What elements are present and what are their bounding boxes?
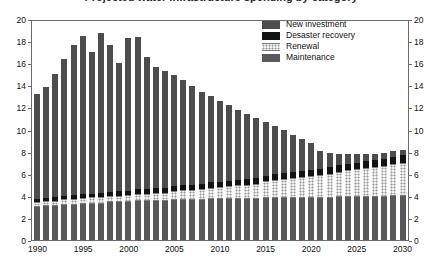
y-tick-mark (28, 108, 31, 109)
bar-1999[interactable] (116, 63, 122, 240)
bar-segment-renewal (390, 164, 396, 196)
bar-segment-renewal (327, 174, 333, 198)
y-tick-label-left-6: 6 (0, 171, 26, 179)
bar-2022[interactable] (327, 153, 333, 240)
y-tick-mark (28, 64, 31, 65)
bar-1994[interactable] (71, 45, 77, 240)
bar-2016[interactable] (272, 126, 278, 240)
bar-1996[interactable] (89, 52, 95, 240)
bar-segment-renewal (281, 179, 287, 198)
bar-1990[interactable] (34, 94, 40, 240)
bar-1992[interactable] (52, 74, 58, 241)
bar-2015[interactable] (263, 122, 269, 240)
bar-2007[interactable] (189, 86, 195, 240)
bar-segment-maintenance (153, 201, 159, 240)
bar-2002[interactable] (144, 57, 150, 240)
bar-segment-maintenance (61, 205, 67, 240)
bar-2001[interactable] (135, 37, 141, 240)
bar-2023[interactable] (336, 154, 342, 240)
bar-1997[interactable] (98, 33, 104, 240)
bar-segment-desaster-recovery (381, 159, 387, 166)
bar-2003[interactable] (153, 67, 159, 240)
y-tick-mark (409, 241, 412, 242)
legend-item-renewal[interactable]: Renewal (262, 41, 355, 52)
y-tick-mark (28, 42, 31, 43)
legend-swatch-new_investment (262, 21, 280, 29)
bar-segment-maintenance (317, 198, 323, 240)
bar-2014[interactable] (253, 118, 259, 240)
y-tick-label-right-12: 12 (414, 104, 440, 112)
bar-1995[interactable] (80, 36, 86, 240)
bar-segment-new-investment (354, 154, 360, 163)
bar-2013[interactable] (244, 114, 250, 240)
bar-2017[interactable] (281, 130, 287, 240)
bar-segment-new-investment (89, 52, 95, 193)
bar-segment-new-investment (61, 59, 67, 196)
bar-2025[interactable] (354, 154, 360, 240)
bar-segment-renewal (317, 175, 323, 198)
bar-segment-new-investment (116, 63, 122, 191)
bar-segment-maintenance (226, 199, 232, 240)
bar-2011[interactable] (226, 105, 232, 240)
bar-2010[interactable] (217, 101, 223, 240)
bar-2018[interactable] (290, 135, 296, 240)
bar-segment-renewal (208, 188, 214, 200)
legend-item-maintenance[interactable]: Maintenance (262, 52, 355, 63)
bar-segment-maintenance (135, 201, 141, 240)
bar-segment-maintenance (71, 205, 77, 240)
legend-swatch-maintenance (262, 54, 280, 62)
bar-2020[interactable] (308, 143, 314, 240)
y-tick-mark (28, 219, 31, 220)
y-tick-label-left-10: 10 (0, 127, 26, 135)
bar-2012[interactable] (235, 110, 241, 240)
bar-2000[interactable] (125, 38, 131, 240)
bar-segment-new-investment (171, 75, 177, 186)
y-tick-label-left-16: 16 (0, 60, 26, 68)
bar-segment-new-investment (71, 45, 77, 195)
bar-segment-new-investment (208, 96, 214, 182)
bar-segment-renewal (400, 163, 406, 196)
bar-2006[interactable] (180, 80, 186, 240)
bar-segment-new-investment (80, 36, 86, 194)
bar-segment-maintenance (381, 197, 387, 240)
bar-1993[interactable] (61, 59, 67, 240)
bar-2027[interactable] (372, 154, 378, 240)
bar-segment-maintenance (336, 197, 342, 240)
bar-segment-desaster-recovery (400, 155, 406, 162)
bar-segment-renewal (116, 196, 122, 203)
bar-2029[interactable] (390, 151, 396, 240)
bar-1991[interactable] (43, 87, 49, 240)
y-tick-mark (409, 86, 412, 87)
bar-segment-new-investment (217, 101, 223, 182)
bar-2030[interactable] (400, 150, 406, 240)
bar-2005[interactable] (171, 75, 177, 240)
bar-segment-maintenance (217, 199, 223, 240)
bar-segment-renewal (226, 186, 232, 199)
bar-segment-renewal (189, 190, 195, 200)
bar-2026[interactable] (363, 154, 369, 240)
bar-2004[interactable] (162, 71, 168, 240)
bar-1998[interactable] (107, 45, 113, 240)
bar-segment-new-investment (98, 33, 104, 193)
bar-segment-renewal (253, 184, 259, 199)
bar-2008[interactable] (199, 92, 205, 240)
y-tick-label-left-8: 8 (0, 149, 26, 157)
bar-2024[interactable] (345, 154, 351, 240)
bar-2009[interactable] (208, 96, 214, 240)
legend-swatch-renewal (262, 43, 280, 51)
bar-segment-desaster-recovery (390, 157, 396, 164)
y-tick-label-left-4: 4 (0, 193, 26, 201)
bar-2028[interactable] (381, 153, 387, 240)
legend-item-new_investment[interactable]: New investment (262, 19, 355, 30)
bar-segment-maintenance (363, 197, 369, 240)
bar-2019[interactable] (299, 139, 305, 240)
bar-segment-renewal (308, 176, 314, 198)
bar-segment-maintenance (162, 201, 168, 240)
bar-segment-maintenance (308, 198, 314, 240)
bar-segment-maintenance (107, 202, 113, 240)
bar-segment-desaster-recovery (354, 163, 360, 170)
legend-item-disaster_recovery[interactable]: Desaster recovery (262, 30, 355, 41)
x-tick-label-2025: 2025 (337, 245, 377, 254)
bar-segment-maintenance (171, 200, 177, 240)
bar-2021[interactable] (317, 151, 323, 240)
